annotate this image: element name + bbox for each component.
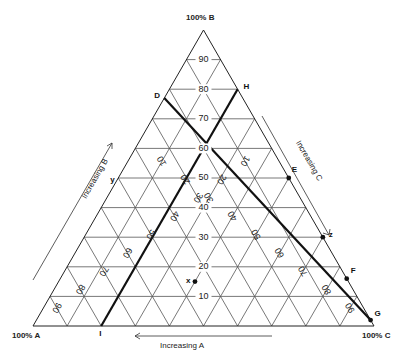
tie-line-d-g [164,98,370,320]
point-label-e: E [292,165,298,174]
increasing-a-indicator: Increasing A [135,333,272,350]
tick-label-b: 90 [198,54,208,64]
tick-label-b: 80 [198,84,208,94]
point-label-x: x [186,276,191,285]
increasing-b-indicator: Increasing B [33,143,112,280]
point-label-y: y [110,175,115,184]
tick-label-c: 60 [273,246,287,260]
tick-label-a: 40 [168,209,182,223]
point-label-f: F [351,266,356,275]
tick-label-c: 50 [249,228,263,242]
point-label-g: G [375,309,381,318]
point-label-h: H [244,82,250,91]
grid-line-c [135,119,254,326]
increasing-b-label: Increasing B [80,157,110,200]
point-label-d: D [154,91,160,100]
increasing-c-label: Increasing C [294,139,324,183]
corner-label-c: 100% C [362,331,391,340]
tick-label-b: 20 [198,261,208,271]
tick-label-a: 60 [121,246,135,260]
ternary-diagram: 1020304050607080901020304050607080901020… [0,0,401,362]
tick-label-c: 10 [155,154,169,168]
point-label-i: I [99,329,101,338]
point-marker-f [344,276,349,281]
increasing-c-indicator: Increasing C [262,116,330,235]
tick-label-a: 90 [50,301,64,315]
tick-label-b: 30 [198,232,208,242]
increasing-a-label: Increasing A [160,341,205,350]
tick-label-b: 50 [198,172,208,182]
tick-label-b: 70 [198,113,208,123]
corner-label-a: 100% A [12,331,40,340]
corner-label-b: 100% B [186,13,215,22]
tick-label-b: 10 [198,291,208,301]
data-points: DHEFGIxyz [99,82,381,338]
point-marker-g [368,318,373,323]
tick-label-c: 40 [225,209,239,223]
tick-label-b: 60 [198,143,208,153]
grid-lines [50,60,357,326]
point-marker-e [286,176,291,181]
tick-label-a: 10 [238,154,252,168]
point-marker-z [320,235,325,240]
point-marker-x [193,279,198,284]
